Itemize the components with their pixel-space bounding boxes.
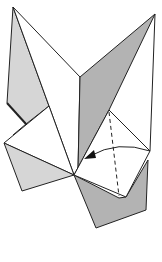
origami-diagram xyxy=(0,0,162,262)
